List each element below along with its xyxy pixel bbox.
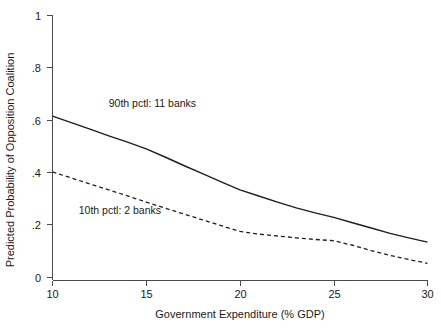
y-tick-label: .2	[32, 219, 41, 231]
chart-background	[0, 0, 441, 328]
predicted-probability-line-chart: 1 .8 .6 .4 .2 0 10 15 20 25 30 90th pctl…	[0, 0, 441, 328]
annotation-10th-pctl: 10th pctl: 2 banks	[79, 204, 161, 216]
y-tick-label: .8	[32, 62, 41, 74]
x-tick-label: 15	[140, 288, 152, 300]
y-tick-label: .4	[32, 167, 41, 179]
annotation-90th-pctl: 90th pctl: 11 banks	[109, 97, 196, 109]
chart-figure: 1 .8 .6 .4 .2 0 10 15 20 25 30 90th pctl…	[0, 0, 441, 328]
y-axis-title: Predicted Probability of Opposition Coal…	[4, 53, 16, 268]
x-tick-label: 30	[421, 288, 433, 300]
x-tick-label: 20	[234, 288, 246, 300]
x-tick-label: 25	[328, 288, 340, 300]
x-tick-label: 10	[46, 288, 58, 300]
y-tick-label: 1	[35, 10, 41, 22]
y-tick-label: 0	[35, 272, 41, 284]
x-axis-title: Government Expenditure (% GDP)	[155, 308, 324, 320]
y-tick-label: .6	[32, 115, 41, 127]
